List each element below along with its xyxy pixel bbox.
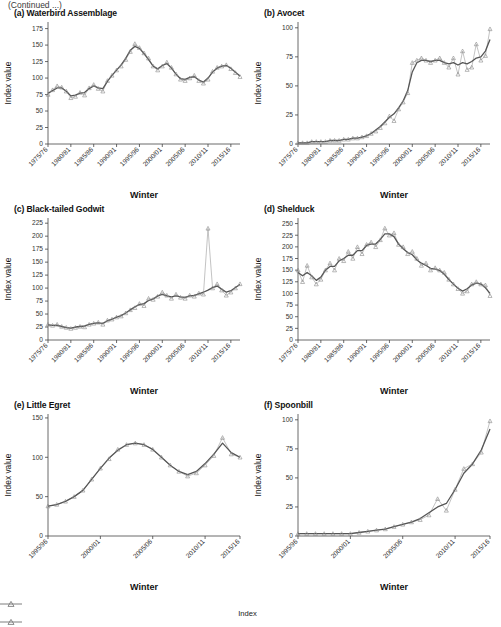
svg-text:1990/91: 1990/91	[95, 342, 117, 364]
svg-text:75: 75	[286, 301, 294, 308]
svg-text:75: 75	[286, 445, 294, 452]
svg-text:25: 25	[286, 111, 294, 118]
svg-text:2010/11: 2010/11	[437, 146, 459, 168]
svg-text:1975/76: 1975/76	[27, 146, 49, 168]
svg-text:2015/16: 2015/16	[469, 538, 491, 560]
panel-c-plot: 02550751001251501752002251975/761980/811…	[0, 202, 250, 398]
svg-text:50: 50	[286, 474, 294, 481]
svg-text:2005/06: 2005/06	[164, 146, 186, 168]
panel-f: (f) Spoonbill 02550751001995/962000/0120…	[250, 398, 500, 594]
svg-text:1995/96: 1995/96	[368, 146, 390, 168]
svg-text:1995/96: 1995/96	[368, 342, 390, 364]
svg-text:50: 50	[286, 82, 294, 89]
svg-text:Index value: Index value	[3, 61, 13, 104]
svg-text:2010/11: 2010/11	[437, 342, 459, 364]
svg-text:2005/06: 2005/06	[132, 538, 154, 560]
svg-text:2015/16: 2015/16	[210, 146, 232, 168]
svg-text:2005/06: 2005/06	[414, 146, 436, 168]
svg-text:125: 125	[32, 271, 43, 278]
svg-text:50: 50	[36, 310, 44, 317]
svg-text:1975/76: 1975/76	[277, 146, 299, 168]
panel-row-2: (c) Black-tailed Godwit 0255075100125150…	[0, 202, 501, 398]
legend-marker-index	[0, 600, 22, 608]
panel-a-plot: 02550751001251501751975/761980/811985/86…	[0, 6, 250, 202]
svg-text:2015/16: 2015/16	[219, 538, 241, 560]
svg-text:200: 200	[282, 243, 293, 250]
svg-text:2000/01: 2000/01	[329, 538, 351, 560]
svg-text:1990/91: 1990/91	[345, 146, 367, 168]
svg-text:200: 200	[32, 232, 43, 239]
svg-text:Index value: Index value	[3, 453, 13, 496]
svg-text:2010/11: 2010/11	[434, 538, 456, 560]
svg-text:225: 225	[32, 219, 43, 226]
svg-text:2015/16: 2015/16	[460, 146, 482, 168]
svg-text:1980/81: 1980/81	[50, 342, 72, 364]
svg-text:2015/16: 2015/16	[210, 342, 232, 364]
svg-text:1985/86: 1985/86	[323, 342, 345, 364]
svg-text:2000/01: 2000/01	[141, 342, 163, 364]
svg-text:1990/91: 1990/91	[95, 146, 117, 168]
svg-text:125: 125	[282, 278, 293, 285]
svg-text:2000/01: 2000/01	[79, 538, 101, 560]
svg-text:1980/81: 1980/81	[300, 146, 322, 168]
svg-text:175: 175	[282, 255, 293, 262]
svg-text:25: 25	[36, 124, 44, 131]
svg-text:1985/86: 1985/86	[73, 342, 95, 364]
svg-text:2005/06: 2005/06	[414, 342, 436, 364]
svg-text:25: 25	[286, 325, 294, 332]
panel-e-plot: 0501001501995/962000/012005/062010/11201…	[0, 398, 250, 594]
svg-text:Winter: Winter	[380, 582, 408, 592]
svg-text:75: 75	[286, 53, 294, 60]
svg-text:50: 50	[286, 313, 294, 320]
svg-text:150: 150	[282, 266, 293, 273]
svg-text:50: 50	[36, 107, 44, 114]
svg-text:1980/81: 1980/81	[300, 342, 322, 364]
svg-text:1975/76: 1975/76	[277, 342, 299, 364]
svg-text:150: 150	[32, 414, 43, 421]
svg-text:1995/96: 1995/96	[118, 342, 140, 364]
svg-text:Winter: Winter	[130, 582, 158, 592]
svg-text:125: 125	[32, 58, 43, 65]
svg-text:100: 100	[282, 416, 293, 423]
figure-page: (Continued ...) (a) Waterbird Assemblage…	[0, 0, 501, 627]
panel-a: (a) Waterbird Assemblage 025507510012515…	[0, 6, 250, 202]
svg-text:2000/01: 2000/01	[391, 342, 413, 364]
svg-text:Winter: Winter	[130, 386, 158, 396]
svg-text:225: 225	[282, 232, 293, 239]
svg-text:100: 100	[32, 74, 43, 81]
svg-text:25: 25	[36, 323, 44, 330]
svg-text:1985/86: 1985/86	[323, 146, 345, 168]
svg-text:2005/06: 2005/06	[164, 342, 186, 364]
svg-text:Winter: Winter	[380, 190, 408, 200]
svg-text:1980/81: 1980/81	[50, 146, 72, 168]
svg-text:2010/11: 2010/11	[187, 342, 209, 364]
panel-row-3: (e) Little Egret 0501001501995/962000/01…	[0, 398, 501, 594]
legend-label-index: Index	[238, 609, 257, 618]
svg-text:2000/01: 2000/01	[141, 146, 163, 168]
svg-text:Winter: Winter	[130, 190, 158, 200]
svg-text:2000/01: 2000/01	[391, 146, 413, 168]
panel-row-1: (a) Waterbird Assemblage 025507510012515…	[0, 6, 501, 202]
svg-text:100: 100	[32, 284, 43, 291]
svg-text:1995/96: 1995/96	[118, 146, 140, 168]
svg-text:Index value: Index value	[3, 257, 13, 300]
legend-marker-sparse-data	[0, 618, 22, 626]
figure-legend: Index Sparse data Smoothed Trend	[0, 600, 501, 627]
svg-text:2005/06: 2005/06	[382, 538, 404, 560]
svg-text:1995/96: 1995/96	[27, 538, 49, 560]
svg-text:2010/11: 2010/11	[187, 146, 209, 168]
svg-text:25: 25	[286, 503, 294, 510]
panel-c: (c) Black-tailed Godwit 0255075100125150…	[0, 202, 250, 398]
panel-d: (d) Shelduck 025507510012515017520022525…	[250, 202, 500, 398]
svg-text:250: 250	[282, 220, 293, 227]
svg-text:75: 75	[36, 91, 44, 98]
svg-text:100: 100	[282, 24, 293, 31]
svg-text:1975/76: 1975/76	[27, 342, 49, 364]
panel-e: (e) Little Egret 0501001501995/962000/01…	[0, 398, 250, 594]
panel-b: (b) Avocet 02550751001975/761980/811985/…	[250, 6, 500, 202]
panel-b-plot: 02550751001975/761980/811985/861990/9119…	[250, 6, 500, 202]
svg-text:100: 100	[282, 290, 293, 297]
panel-d-plot: 02550751001251501752002252501975/761980/…	[250, 202, 500, 398]
svg-text:1995/96: 1995/96	[277, 538, 299, 560]
svg-text:Index value: Index value	[253, 257, 263, 300]
